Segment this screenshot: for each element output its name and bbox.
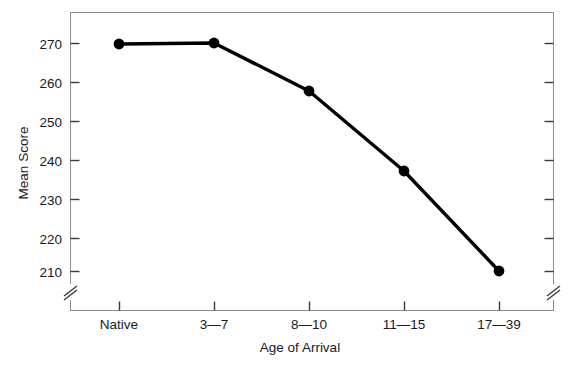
x-tick-label-8-10: 8—10	[291, 317, 327, 332]
data-point-3-7[interactable]	[209, 38, 220, 49]
y-tick-label-220: 220	[39, 232, 62, 247]
figure-container: 270 260 250 240 230 220 210 Native 3—7 8…	[0, 0, 576, 376]
y-tick-label-260: 260	[39, 76, 62, 91]
y-tick-labels: 270 260 250 240 230 220 210	[39, 37, 62, 280]
x-axis-title: Age of Arrival	[260, 340, 340, 355]
x-tick-label-3-7: 3—7	[200, 317, 229, 332]
x-tick-labels: Native 3—7 8—10 11—15 17—39	[100, 317, 521, 332]
y-tick-label-240: 240	[39, 154, 62, 169]
x-tick-label-native: Native	[100, 317, 138, 332]
y-tick-label-230: 230	[39, 193, 62, 208]
y-tick-label-270: 270	[39, 37, 62, 52]
y-axis-break-right-icon	[547, 284, 560, 300]
x-tick-label-11-15: 11—15	[383, 317, 426, 332]
y-tick-label-210: 210	[39, 265, 62, 280]
data-point-17-39[interactable]	[494, 266, 505, 277]
data-point-native[interactable]	[114, 39, 125, 50]
data-point-8-10[interactable]	[304, 86, 315, 97]
y-axis-title: Mean Score	[16, 127, 31, 200]
data-point-11-15[interactable]	[399, 166, 410, 177]
line-chart: 270 260 250 240 230 220 210 Native 3—7 8…	[0, 0, 576, 376]
y-tick-label-250: 250	[39, 115, 62, 130]
x-tick-label-17-39: 17—39	[477, 317, 521, 332]
y-axis-break-left-icon	[64, 284, 77, 300]
plot-frame	[71, 13, 554, 311]
